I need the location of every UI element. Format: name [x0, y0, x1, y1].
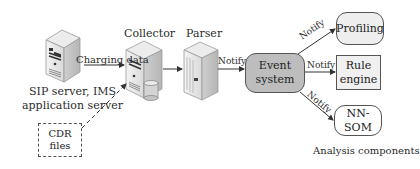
analysis-components-label: Analysis components	[313, 146, 420, 156]
profiling-node[interactable]: Profiling	[336, 12, 384, 45]
sip-server-label-line1: SIP server, IMS	[29, 86, 116, 97]
event-system-node[interactable]: Event system	[245, 53, 305, 93]
cdr-files-node[interactable]: CDR files	[38, 123, 82, 157]
event-system-label: Event system	[246, 59, 304, 87]
edge-label-charging-data: Charging data	[76, 55, 149, 65]
rule-engine-label-line2: engine	[340, 73, 378, 87]
nn-som-node[interactable]: NN-SOM	[334, 105, 382, 136]
database-icon	[144, 81, 158, 101]
sip-server-icon	[46, 30, 80, 82]
profiling-label: Profiling	[336, 22, 384, 36]
nn-som-label: NN-SOM	[335, 107, 381, 135]
parser-server-icon	[184, 42, 218, 100]
edge-label-notify-parser: Notify	[218, 57, 246, 66]
parser-label: Parser	[186, 28, 222, 39]
sip-server-label-line2: application server	[22, 100, 123, 111]
rule-engine-node[interactable]: Rule engine	[336, 55, 381, 90]
rule-engine-label-line1: Rule	[346, 59, 371, 73]
cdr-files-label: CDR files	[39, 128, 81, 153]
collector-label: Collector	[124, 28, 175, 39]
edge-label-notify-rule: Notify	[307, 61, 335, 70]
